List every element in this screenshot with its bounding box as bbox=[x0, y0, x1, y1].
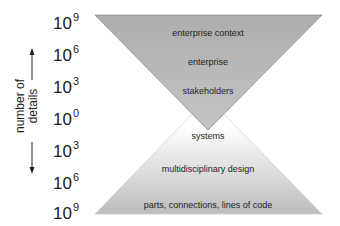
tick-label: 103 bbox=[53, 137, 89, 161]
tick-label: 109 bbox=[53, 9, 89, 33]
hourglass-diagram: number of details 109 106 103 100 103 10… bbox=[0, 0, 340, 226]
tick-label: 106 bbox=[53, 41, 89, 65]
level-enterprise: enterprise bbox=[108, 57, 308, 68]
level-multidisciplinary-design: multidisciplinary design bbox=[108, 164, 308, 175]
down-arrow-icon bbox=[30, 142, 35, 174]
tick-label: 100 bbox=[53, 105, 89, 129]
tick-label: 103 bbox=[53, 73, 89, 97]
level-enterprise-context: enterprise context bbox=[108, 28, 308, 39]
level-parts-connections-code: parts, connections, lines of code bbox=[108, 200, 308, 211]
tick-label: 106 bbox=[53, 169, 89, 193]
axis-label: number of details bbox=[14, 76, 50, 136]
tick-label: 109 bbox=[53, 199, 89, 223]
level-systems: systems bbox=[108, 131, 308, 142]
axis-label-line2: details bbox=[27, 76, 40, 136]
level-stakeholders: stakeholders bbox=[108, 86, 308, 97]
